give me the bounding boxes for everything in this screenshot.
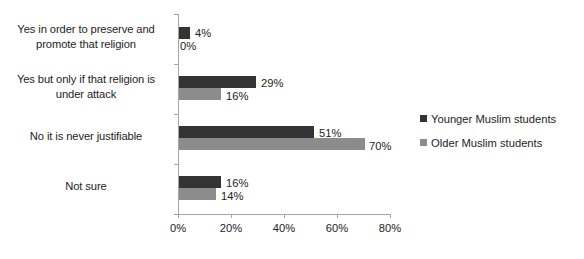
bar-younger-0[interactable] [179, 27, 190, 39]
xtick-label-4: 80% [368, 222, 412, 234]
xtick-label-3: 60% [315, 222, 359, 234]
chart-legend: Younger Muslim students Older Muslim stu… [420, 110, 556, 158]
category-label-0-line-0: Yes in order to preserve and [17, 23, 154, 35]
category-label-2: No it is never justifiable [0, 129, 172, 144]
bar-value-older-2: 70% [369, 140, 391, 152]
legend-label-younger: Younger Muslim students [431, 113, 556, 125]
category-label-3: Not sure [0, 179, 172, 194]
bar-older-3[interactable] [179, 188, 216, 200]
legend-item-younger[interactable]: Younger Muslim students [420, 110, 556, 127]
bar-value-younger-3: 16% [226, 177, 248, 189]
category-label-2-line-0: No it is never justifiable [30, 130, 142, 142]
legend-swatch-older-icon [420, 139, 427, 146]
axis-tick-y-2 [174, 114, 178, 115]
bar-value-older-0: 0% [180, 40, 196, 52]
axis-tick-x-2 [284, 214, 285, 218]
bar-value-older-3: 14% [221, 190, 243, 202]
xtick-label-1: 20% [209, 222, 253, 234]
xtick-label-2: 40% [262, 222, 306, 234]
category-label-0-line-1: promote that religion [36, 38, 136, 50]
bar-older-2[interactable] [179, 138, 365, 150]
category-label-0: Yes in order to preserve and promote tha… [0, 22, 172, 51]
xtick-label-0: 0% [156, 222, 200, 234]
category-label-3-line-0: Not sure [65, 180, 106, 192]
legend-label-older: Older Muslim students [431, 137, 542, 149]
bar-younger-2[interactable] [179, 126, 314, 138]
bar-value-younger-0: 4% [195, 27, 211, 39]
plot-area: 4% 0% 29% 16% 51% 70% 16% 14% 0% 20% 40%… [178, 14, 390, 214]
category-axis-labels: Yes in order to preserve and promote tha… [0, 14, 172, 214]
axis-tick-x-4 [390, 214, 391, 218]
legend-swatch-younger-icon [420, 115, 427, 122]
bar-younger-1[interactable] [179, 76, 256, 88]
category-label-1: Yes but only if that religion is under a… [0, 72, 172, 101]
category-label-1-line-0: Yes but only if that religion is [17, 73, 155, 85]
bar-older-1[interactable] [179, 88, 221, 100]
legend-item-older[interactable]: Older Muslim students [420, 134, 556, 151]
axis-tick-y-1 [174, 64, 178, 65]
axis-tick-y-0 [174, 14, 178, 15]
category-label-1-line-1: under attack [56, 88, 116, 100]
axis-tick-x-1 [231, 214, 232, 218]
bar-value-younger-1: 29% [261, 77, 283, 89]
bar-younger-3[interactable] [179, 176, 221, 188]
bar-chart: Yes in order to preserve and promote tha… [0, 0, 584, 259]
axis-tick-x-3 [337, 214, 338, 218]
bar-value-older-1: 16% [226, 90, 248, 102]
axis-tick-y-3 [174, 164, 178, 165]
axis-tick-x-0 [178, 214, 179, 218]
clipped-title-remnant [100, 0, 400, 3]
